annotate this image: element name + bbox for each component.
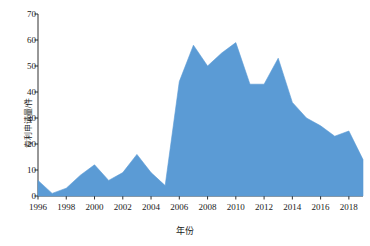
x-tick-label: 2000: [86, 202, 104, 212]
x-axis-tick-labels: 1996199820002002200420062008201020122014…: [0, 0, 370, 246]
x-tick-label: 2016: [312, 202, 330, 212]
x-tick-label: 2014: [283, 202, 301, 212]
x-tick-label: 2012: [255, 202, 273, 212]
x-tick-label: 2010: [227, 202, 245, 212]
x-axis-title: 年份: [0, 224, 370, 237]
patent-application-area-chart: 专利申请量/件 010203040506070 1996199820002002…: [0, 0, 370, 246]
x-tick-label: 2002: [114, 202, 132, 212]
x-tick-label: 2008: [199, 202, 217, 212]
x-tick-label: 1996: [29, 202, 47, 212]
x-tick-label: 2006: [170, 202, 188, 212]
x-tick-label: 2004: [142, 202, 160, 212]
x-tick-label: 1998: [57, 202, 75, 212]
x-tick-label: 2018: [340, 202, 358, 212]
figure-caption-partial: [0, 241, 370, 246]
